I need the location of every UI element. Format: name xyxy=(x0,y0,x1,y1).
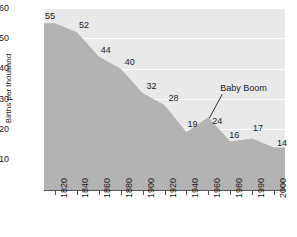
data-label-1860: 44 xyxy=(101,46,111,55)
x-tick-mark-1820 xyxy=(55,191,56,195)
x-tick-mark-1900 xyxy=(143,191,144,195)
x-tick-label-2000: 2000 xyxy=(278,164,288,198)
x-tick-mark-1920 xyxy=(165,191,166,195)
data-label-1920: 28 xyxy=(169,94,179,103)
area-series xyxy=(44,8,285,190)
y-tick-label-20: 20 xyxy=(0,125,9,134)
data-label-1960: 24 xyxy=(212,117,222,126)
data-label-1900: 32 xyxy=(147,82,157,91)
x-tick-mark-1860 xyxy=(99,191,100,195)
x-tick-label-1960: 1960 xyxy=(212,164,222,198)
data-label-1820: 55 xyxy=(45,12,55,21)
x-tick-mark-1980 xyxy=(230,191,231,195)
x-tick-label-1980: 1980 xyxy=(234,164,244,198)
x-tick-mark-1990 xyxy=(252,191,253,195)
x-tick-label-1940: 1940 xyxy=(190,164,200,198)
x-tick-mark-1940 xyxy=(186,191,187,195)
baby-boom-annotation-label: Baby Boom xyxy=(220,83,267,93)
y-tick-label-50: 50 xyxy=(0,34,9,43)
y-tick-label-60: 60 xyxy=(0,4,9,13)
y-tick-label-30: 30 xyxy=(0,95,9,104)
data-label-1880: 40 xyxy=(125,58,135,67)
data-label-2000: 14 xyxy=(277,139,287,148)
x-tick-mark-2000 xyxy=(274,191,275,195)
x-tick-label-1900: 1900 xyxy=(146,164,156,198)
x-tick-label-1820: 1820 xyxy=(59,164,69,198)
data-label-1990: 17 xyxy=(253,124,263,133)
plot-area xyxy=(44,8,285,190)
y-tick-label-10: 10 xyxy=(0,155,9,164)
y-tick-label-40: 40 xyxy=(0,64,9,73)
x-tick-mark-1960 xyxy=(208,191,209,195)
x-tick-label-1880: 1880 xyxy=(124,164,134,198)
x-tick-mark-1840 xyxy=(77,191,78,195)
data-label-1840: 52 xyxy=(79,21,89,30)
births-per-thousand-area-chart: Births per thousand 605040302010 1820184… xyxy=(0,0,297,237)
x-tick-mark-1880 xyxy=(121,191,122,195)
x-tick-label-1860: 1860 xyxy=(102,164,112,198)
x-tick-label-1990: 1990 xyxy=(256,164,266,198)
data-label-1980: 16 xyxy=(229,131,239,140)
x-tick-label-1920: 1920 xyxy=(168,164,178,198)
data-label-1940: 19 xyxy=(187,120,197,129)
x-tick-label-1840: 1840 xyxy=(80,164,90,198)
